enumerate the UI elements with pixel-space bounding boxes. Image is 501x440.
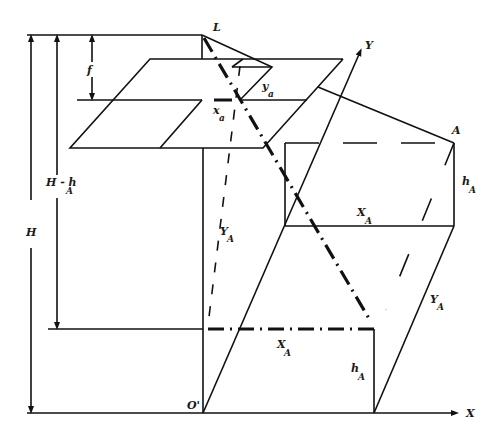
label-XA-lower-sub: A <box>283 348 291 358</box>
label-YA-right-sub: A <box>436 302 444 312</box>
label-hA-upper-sub: A <box>468 185 476 195</box>
label-X-axis: X <box>465 407 475 420</box>
ground-parallelogram-right <box>374 226 454 413</box>
ray-to-point-a <box>318 87 454 143</box>
label-f: f <box>86 64 94 77</box>
label-origin: O' <box>187 399 200 412</box>
label-hA-lower-sub: A <box>357 372 365 382</box>
label-H-minus-hA-sub: A <box>65 186 73 196</box>
label-ya-sub: a <box>268 89 274 99</box>
image-plane <box>70 59 343 148</box>
relief-displacement-diagram: L f x a y a Y A h A X A H - h A Y A H Y … <box>0 0 501 440</box>
label-A: A <box>451 124 461 137</box>
photo-ya-line2 <box>232 59 243 67</box>
label-xa-sub: a <box>219 113 225 123</box>
label-Y-axis: Y <box>365 39 374 52</box>
ray-to-ground-point <box>204 38 371 322</box>
label-XA-upper-sub: A <box>364 216 372 226</box>
label-L: L <box>212 21 221 34</box>
label-YA-left-sub: A <box>226 234 234 244</box>
label-H: H <box>25 226 37 239</box>
photo-y-axis <box>160 100 202 148</box>
